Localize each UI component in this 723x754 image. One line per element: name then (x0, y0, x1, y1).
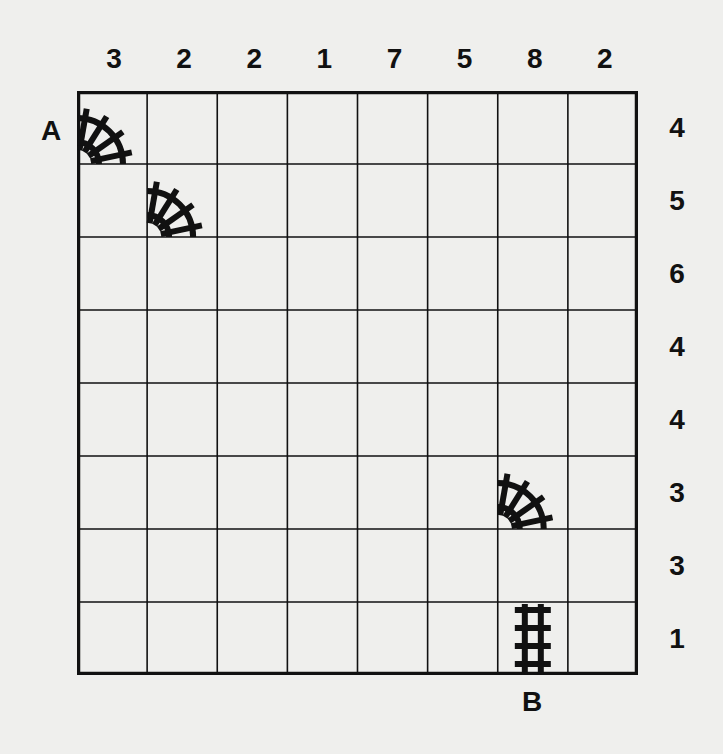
grid-cell[interactable] (287, 164, 357, 237)
grid-cell[interactable] (147, 310, 217, 383)
grid-cell[interactable] (358, 91, 428, 164)
grid-cell[interactable] (428, 237, 498, 310)
grid-cell[interactable] (568, 237, 638, 310)
grid-cell[interactable] (147, 602, 217, 675)
grid-cell[interactable] (217, 91, 287, 164)
grid-cell[interactable] (568, 529, 638, 602)
grid-cell[interactable] (428, 164, 498, 237)
grid-cell[interactable] (568, 164, 638, 237)
grid-cell[interactable] (287, 91, 357, 164)
grid-cell[interactable] (428, 602, 498, 675)
grid-cell[interactable] (217, 310, 287, 383)
row-clue: 4 (660, 406, 694, 434)
grid-cell[interactable] (358, 602, 428, 675)
grid-cell[interactable] (287, 310, 357, 383)
row-clue: 5 (660, 187, 694, 215)
grid-cell[interactable] (147, 383, 217, 456)
grid-cell[interactable] (77, 91, 147, 164)
grid-cell[interactable] (287, 602, 357, 675)
grid-cell[interactable] (358, 383, 428, 456)
grid-cell[interactable] (287, 237, 357, 310)
grid-cell[interactable] (287, 383, 357, 456)
start-label-a: A (41, 115, 61, 147)
grid-cell[interactable] (287, 456, 357, 529)
grid-cell[interactable] (147, 529, 217, 602)
grid-cell[interactable] (428, 310, 498, 383)
grid-cell[interactable] (77, 529, 147, 602)
column-clue: 5 (430, 45, 500, 73)
grid-cell[interactable] (428, 529, 498, 602)
grid-cell[interactable] (358, 456, 428, 529)
row-clue: 3 (660, 479, 694, 507)
grid-cell[interactable] (217, 383, 287, 456)
grid-cell[interactable] (358, 237, 428, 310)
grid-cell[interactable] (358, 164, 428, 237)
column-clue: 3 (79, 45, 149, 73)
grid-cell[interactable] (77, 602, 147, 675)
grid-cell[interactable] (77, 383, 147, 456)
grid-cell[interactable] (217, 529, 287, 602)
grid-cell[interactable] (147, 91, 217, 164)
grid-cell[interactable] (498, 91, 568, 164)
grid-cell[interactable] (217, 456, 287, 529)
grid-cell[interactable] (217, 164, 287, 237)
grid-cell[interactable] (498, 237, 568, 310)
grid-cell[interactable] (498, 383, 568, 456)
grid-cell[interactable] (77, 237, 147, 310)
row-clue: 4 (660, 333, 694, 361)
grid-cell[interactable] (217, 237, 287, 310)
row-clue: 4 (660, 114, 694, 142)
grid-cell[interactable] (568, 383, 638, 456)
grid-cell[interactable] (217, 602, 287, 675)
grid-cell[interactable] (77, 310, 147, 383)
end-label-b: B (522, 686, 542, 718)
grid-cell[interactable] (428, 383, 498, 456)
row-clue: 1 (660, 625, 694, 653)
grid-cell[interactable] (428, 456, 498, 529)
column-clue: 7 (360, 45, 430, 73)
grid-cell[interactable] (147, 456, 217, 529)
grid-cell[interactable] (358, 310, 428, 383)
grid-cell[interactable] (498, 310, 568, 383)
column-clue: 2 (219, 45, 289, 73)
grid-cell[interactable] (358, 529, 428, 602)
grid-cell[interactable] (498, 529, 568, 602)
grid-cell[interactable] (568, 456, 638, 529)
grid-cell[interactable] (568, 602, 638, 675)
grid-cell[interactable] (498, 602, 568, 675)
grid-cell[interactable] (568, 310, 638, 383)
grid-cell[interactable] (147, 164, 217, 237)
grid-cell[interactable] (498, 456, 568, 529)
grid-cell[interactable] (77, 164, 147, 237)
grid-cell[interactable] (287, 529, 357, 602)
column-clue: 1 (289, 45, 359, 73)
grid-cell[interactable] (77, 456, 147, 529)
grid-cell[interactable] (498, 164, 568, 237)
row-clue: 3 (660, 552, 694, 580)
column-clue: 8 (500, 45, 570, 73)
puzzle-grid[interactable] (77, 91, 638, 675)
grid-cell[interactable] (147, 237, 217, 310)
column-clue: 2 (149, 45, 219, 73)
row-clue: 6 (660, 260, 694, 288)
grid-cell[interactable] (428, 91, 498, 164)
grid-cell[interactable] (568, 91, 638, 164)
column-clue: 2 (570, 45, 640, 73)
